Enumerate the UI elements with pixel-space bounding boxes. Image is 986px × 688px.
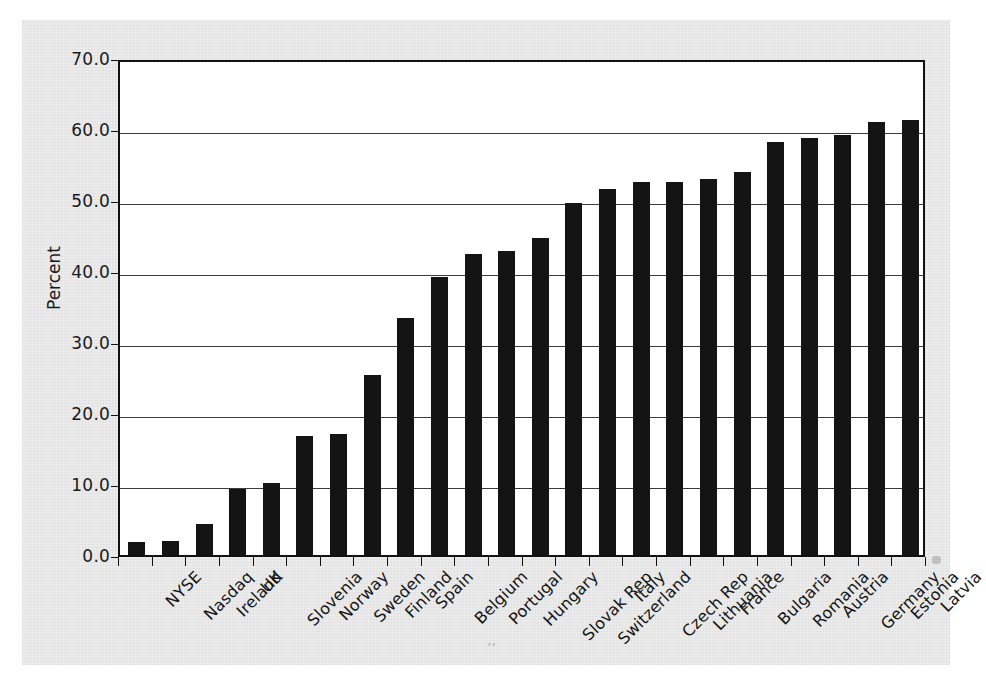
bar	[801, 138, 818, 555]
y-axis-tick-mark	[111, 131, 118, 132]
bar	[263, 483, 280, 555]
x-axis-tick-mark	[622, 557, 623, 566]
bar	[633, 182, 650, 555]
bar	[162, 541, 179, 555]
bar	[565, 203, 582, 555]
bar	[734, 172, 751, 555]
bar	[330, 434, 347, 555]
x-axis-tick-mark	[387, 557, 388, 566]
y-axis-tick-mark	[111, 273, 118, 274]
x-axis-tick-mark	[555, 557, 556, 566]
bar	[666, 182, 683, 555]
y-axis-tick-label: 10.0	[50, 475, 110, 495]
bar	[431, 277, 448, 555]
bar	[767, 142, 784, 555]
bar	[498, 251, 515, 555]
scan-artifact-speck	[932, 556, 941, 564]
bar	[902, 120, 919, 555]
bar	[868, 122, 885, 555]
x-axis-tick-mark	[858, 557, 859, 566]
bar	[364, 375, 381, 555]
x-axis-tick-marks	[118, 557, 925, 567]
scan-artifact-mark: ’’	[487, 640, 496, 656]
x-axis-tick-mark	[757, 557, 758, 566]
x-axis-tick-mark	[421, 557, 422, 566]
y-axis-tick-label: 30.0	[50, 333, 110, 353]
plot-area	[118, 60, 925, 557]
x-axis-tick-mark	[925, 557, 926, 566]
x-axis-tick-mark	[219, 557, 220, 566]
x-axis-tick-mark	[118, 557, 119, 566]
x-axis-tick-mark	[253, 557, 254, 566]
x-axis-tick-mark	[824, 557, 825, 566]
y-axis-tick-label: 70.0	[50, 49, 110, 69]
y-axis-tick-mark	[111, 202, 118, 203]
x-axis-tick-mark	[488, 557, 489, 566]
x-axis-tick-mark	[891, 557, 892, 566]
y-axis-tick-label: 50.0	[50, 191, 110, 211]
bar	[196, 524, 213, 555]
x-axis-tick-mark	[320, 557, 321, 566]
x-axis-tick-mark	[353, 557, 354, 566]
y-axis-tick-label: 20.0	[50, 404, 110, 424]
x-axis-tick-mark	[791, 557, 792, 566]
bar	[397, 318, 414, 555]
bar	[465, 254, 482, 555]
bar	[229, 489, 246, 555]
y-axis-tick-label: 40.0	[50, 262, 110, 282]
y-axis-tick-mark	[111, 344, 118, 345]
x-axis-tick-mark	[454, 557, 455, 566]
bar	[599, 189, 616, 555]
x-axis-tick-labels: NYSENasdaqIrelandUKSloveniaNorwaySwedenF…	[118, 567, 925, 667]
x-axis-tick-label: NYSE	[161, 567, 205, 611]
x-axis-tick-mark	[656, 557, 657, 566]
y-axis-tick-label: 60.0	[50, 120, 110, 140]
bar	[532, 238, 549, 555]
x-axis-tick-mark	[589, 557, 590, 566]
x-axis-tick-mark	[522, 557, 523, 566]
x-axis-tick-mark	[723, 557, 724, 566]
bar	[834, 135, 851, 555]
y-axis-tick-mark	[111, 60, 118, 61]
y-axis-tick-mark	[111, 415, 118, 416]
x-axis-tick-mark	[690, 557, 691, 566]
x-axis-tick-mark	[152, 557, 153, 566]
bar	[296, 436, 313, 555]
y-axis-tick-mark	[111, 557, 118, 558]
x-axis-tick-mark	[185, 557, 186, 566]
bar	[700, 179, 717, 555]
bar	[128, 542, 145, 555]
y-axis-tick-labels: 0.010.020.030.040.050.060.070.0	[40, 60, 110, 557]
y-axis-tick-mark	[111, 486, 118, 487]
x-axis-tick-mark	[286, 557, 287, 566]
bar-series	[120, 62, 923, 555]
y-axis-tick-label: 0.0	[50, 546, 110, 566]
